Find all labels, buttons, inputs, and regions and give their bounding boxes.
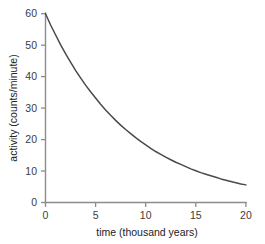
y-tick-label-20: 20 [25, 133, 37, 145]
y-tick-label-30: 30 [25, 102, 37, 114]
x-tick-label-15: 15 [190, 209, 202, 221]
x-axis-ticks: 0 5 10 15 20 [43, 203, 252, 222]
x-tick-label-10: 10 [140, 209, 152, 221]
y-tick-label-10: 10 [25, 165, 37, 177]
x-tick-label-20: 20 [240, 209, 252, 221]
y-tick-label-40: 40 [25, 70, 37, 82]
y-axis-ticks: 0 10 20 30 40 50 60 [25, 7, 45, 208]
decay-curve [46, 14, 246, 185]
x-axis-title: time (thousand years) [96, 226, 198, 238]
x-tick-label-5: 5 [93, 209, 99, 221]
y-tick-label-0: 0 [31, 196, 37, 208]
y-tick-label-60: 60 [25, 7, 37, 19]
x-tick-label-0: 0 [43, 209, 49, 221]
axes-group [45, 13, 246, 203]
y-tick-label-50: 50 [25, 39, 37, 51]
y-axis-title: activity (counts/minute) [7, 54, 19, 161]
exponential-decay-chart: 0 10 20 30 40 50 60 0 5 10 15 20 time (t… [0, 0, 265, 244]
chart-container: 0 10 20 30 40 50 60 0 5 10 15 20 time (t… [0, 0, 265, 244]
